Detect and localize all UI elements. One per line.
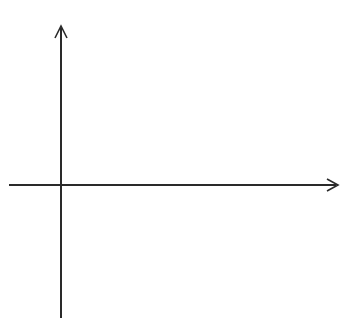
coordinate-plane: [0, 0, 349, 332]
